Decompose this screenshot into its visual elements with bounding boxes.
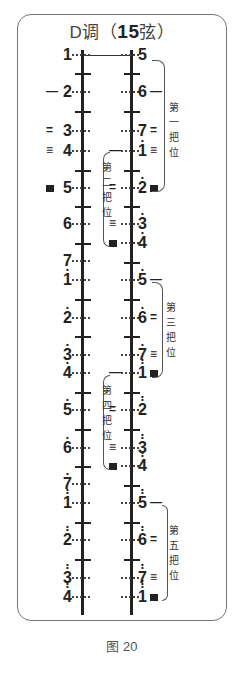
left-fret-dots xyxy=(72,260,90,266)
right-fret-dots xyxy=(121,409,139,415)
right-fret-dots xyxy=(121,372,139,378)
title-string-count: 15 xyxy=(117,21,139,42)
position-1-bracket xyxy=(152,60,165,192)
left-fret-dots xyxy=(72,317,90,323)
left-finger-mark-3: = xyxy=(46,124,53,136)
right-note-5: 2• xyxy=(138,180,147,196)
right-note-8: 5• xyxy=(138,272,147,288)
right-fret-tick xyxy=(124,170,140,172)
left-fret-tick xyxy=(75,392,91,394)
right-fret-tick xyxy=(124,206,140,208)
left-fret-dots xyxy=(72,372,90,378)
right-note-11: 1•• xyxy=(138,365,147,381)
left-fret-tick xyxy=(75,429,91,431)
left-fret-dots xyxy=(72,130,90,136)
left-fret-dots xyxy=(72,409,90,415)
position-3-bracket xyxy=(152,282,163,378)
right-right-mark-17: ≡ xyxy=(150,571,157,583)
right-left-mark-7 xyxy=(109,237,117,249)
position-4-label: 第四把位 xyxy=(101,383,112,443)
left-fret-tick xyxy=(75,206,91,208)
right-right-mark-15: — xyxy=(150,496,162,508)
right-fret-dots xyxy=(121,465,139,471)
left-note-6: 6 xyxy=(63,216,72,232)
left-fret-dots xyxy=(72,91,90,97)
left-note-9: 2• xyxy=(63,310,72,326)
left-note-12: 5• xyxy=(63,402,72,418)
left-note-11: 4• xyxy=(63,365,72,381)
title-paren-close: ） xyxy=(157,23,175,42)
right-fret-dots xyxy=(121,317,139,323)
left-fret-dots xyxy=(72,596,90,602)
right-note-16: 6•• xyxy=(138,532,147,548)
left-finger-mark-4: ≡ xyxy=(46,144,53,156)
right-fret-dots xyxy=(121,54,139,60)
right-fret-dots xyxy=(121,150,139,156)
title-strings-label: 弦 xyxy=(139,23,157,42)
left-fret-tick xyxy=(75,299,91,301)
left-note-13: 6• xyxy=(63,440,72,456)
position-5-label: 第五把位 xyxy=(168,523,179,583)
left-fret-dots xyxy=(72,502,90,508)
left-fret-dots xyxy=(72,447,90,453)
left-note-18: 4•• xyxy=(63,589,72,605)
right-fret-tick xyxy=(124,429,140,431)
right-fret-tick xyxy=(124,559,140,561)
right-fret-tick xyxy=(124,73,140,75)
left-fret-dots xyxy=(72,577,90,583)
right-note-9: 6• xyxy=(138,310,147,326)
right-right-mark-16: = xyxy=(150,533,157,545)
left-fret-tick xyxy=(75,243,91,245)
left-fret-dots xyxy=(72,539,90,545)
right-fret-dots xyxy=(121,242,139,248)
right-fret-dots xyxy=(121,91,139,97)
left-finger-mark-5 xyxy=(46,182,54,194)
right-fret-dots xyxy=(121,354,139,360)
right-note-12: 2•• xyxy=(138,402,147,418)
right-fret-dots xyxy=(121,223,139,229)
right-left-mark-4: — xyxy=(109,144,121,156)
left-finger-mark-2: — xyxy=(46,85,58,97)
title-key: D调 xyxy=(70,23,100,42)
title-paren-open: （ xyxy=(100,23,118,42)
left-fret-tick xyxy=(75,522,91,524)
left-note-5: 5 xyxy=(63,180,72,196)
left-fret-tick xyxy=(75,111,91,113)
left-fret-dots xyxy=(72,150,90,156)
left-fret-dots xyxy=(72,223,90,229)
right-fret-dots xyxy=(121,447,139,453)
right-fret-tick xyxy=(124,392,140,394)
left-fret-tick xyxy=(75,73,91,75)
right-note-15: 5•• xyxy=(138,495,147,511)
right-fret-tick xyxy=(124,336,140,338)
left-note-15: 1•• xyxy=(63,495,72,511)
left-note-2: 2 xyxy=(63,84,72,100)
right-fret-dots xyxy=(121,279,139,285)
left-fret-tick xyxy=(75,466,91,468)
position-1-label: 第一把位 xyxy=(168,100,179,160)
left-fret-dots xyxy=(72,483,90,489)
right-fret-dots xyxy=(121,502,139,508)
left-fret-tick xyxy=(75,559,91,561)
left-fret-dots xyxy=(72,187,90,193)
left-note-4: 4 xyxy=(63,143,72,159)
right-note-14: 4•• xyxy=(138,458,147,474)
right-fret-tick xyxy=(124,262,140,264)
right-fret-tick xyxy=(124,299,140,301)
left-fret-dots xyxy=(72,54,90,60)
right-fret-tick xyxy=(124,522,140,524)
position-3-label: 第三把位 xyxy=(165,300,176,360)
right-fret-tick xyxy=(124,485,140,487)
left-note-1: 1 xyxy=(63,47,72,63)
right-fret-dots xyxy=(121,130,139,136)
right-fret-tick xyxy=(124,111,140,113)
right-fret-dots xyxy=(121,596,139,602)
left-fret-dots xyxy=(72,354,90,360)
left-note-8: 1• xyxy=(63,272,72,288)
right-note-1: 5 xyxy=(138,47,147,63)
diagram-title: D调（15弦） xyxy=(0,18,244,43)
left-note-16: 2•• xyxy=(63,532,72,548)
right-fret-dots xyxy=(121,539,139,545)
right-left-mark-14 xyxy=(109,460,117,472)
right-note-18: 1••• xyxy=(138,589,147,605)
